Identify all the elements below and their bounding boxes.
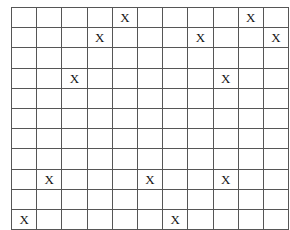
grid-cell-empty[interactable] <box>37 28 62 48</box>
grid-cell-empty[interactable] <box>213 209 238 225</box>
grid-cell-empty[interactable] <box>188 68 213 88</box>
grid-cell-empty[interactable] <box>62 108 87 128</box>
grid-cell-empty[interactable] <box>12 108 37 128</box>
grid-cell-empty[interactable] <box>112 28 137 48</box>
grid-cell-empty[interactable] <box>87 189 112 209</box>
grid-cell-empty[interactable] <box>87 209 112 225</box>
grid-cell-empty[interactable] <box>112 209 137 225</box>
grid-cell-empty[interactable] <box>263 169 288 189</box>
grid-cell-marked[interactable]: X <box>112 8 137 28</box>
grid-cell-empty[interactable] <box>238 48 263 68</box>
grid-cell-empty[interactable] <box>62 209 87 225</box>
grid-cell-empty[interactable] <box>112 189 137 209</box>
grid-cell-empty[interactable] <box>163 88 188 108</box>
grid-cell-empty[interactable] <box>62 129 87 149</box>
grid-cell-marked[interactable]: X <box>213 68 238 88</box>
grid-cell-empty[interactable] <box>37 209 62 225</box>
grid-cell-empty[interactable] <box>62 149 87 169</box>
grid-cell-empty[interactable] <box>263 8 288 28</box>
grid-cell-empty[interactable] <box>62 48 87 68</box>
grid-cell-empty[interactable] <box>213 8 238 28</box>
grid-cell-empty[interactable] <box>37 149 62 169</box>
grid-cell-empty[interactable] <box>163 108 188 128</box>
grid-cell-empty[interactable] <box>12 88 37 108</box>
grid-cell-empty[interactable] <box>87 169 112 189</box>
grid-cell-empty[interactable] <box>213 48 238 68</box>
grid-cell-empty[interactable] <box>137 149 162 169</box>
grid-cell-empty[interactable] <box>137 28 162 48</box>
grid-cell-empty[interactable] <box>62 88 87 108</box>
grid-cell-empty[interactable] <box>137 88 162 108</box>
grid-cell-empty[interactable] <box>213 189 238 209</box>
grid-cell-empty[interactable] <box>163 48 188 68</box>
grid-cell-empty[interactable] <box>188 108 213 128</box>
grid-cell-empty[interactable] <box>37 108 62 128</box>
grid-cell-empty[interactable] <box>188 88 213 108</box>
grid-cell-empty[interactable] <box>87 129 112 149</box>
grid-cell-empty[interactable] <box>213 88 238 108</box>
grid-cell-empty[interactable] <box>12 189 37 209</box>
grid-cell-empty[interactable] <box>163 28 188 48</box>
grid-cell-empty[interactable] <box>87 88 112 108</box>
grid-cell-empty[interactable] <box>62 189 87 209</box>
grid-cell-empty[interactable] <box>112 149 137 169</box>
grid-cell-empty[interactable] <box>238 209 263 225</box>
grid-cell-empty[interactable] <box>12 68 37 88</box>
grid-cell-empty[interactable] <box>188 8 213 28</box>
grid-cell-marked[interactable]: X <box>62 68 87 88</box>
grid-cell-empty[interactable] <box>188 129 213 149</box>
grid-cell-empty[interactable] <box>163 189 188 209</box>
grid-cell-empty[interactable] <box>163 8 188 28</box>
grid-cell-empty[interactable] <box>188 209 213 225</box>
grid-cell-empty[interactable] <box>87 48 112 68</box>
grid-cell-empty[interactable] <box>163 149 188 169</box>
grid-cell-empty[interactable] <box>188 149 213 169</box>
grid-cell-empty[interactable] <box>12 129 37 149</box>
grid-cell-empty[interactable] <box>12 8 37 28</box>
grid-cell-empty[interactable] <box>263 48 288 68</box>
grid-cell-empty[interactable] <box>87 8 112 28</box>
grid-cell-empty[interactable] <box>112 48 137 68</box>
grid-cell-empty[interactable] <box>137 48 162 68</box>
grid-cell-empty[interactable] <box>87 108 112 128</box>
grid-cell-empty[interactable] <box>112 68 137 88</box>
grid-cell-empty[interactable] <box>12 169 37 189</box>
grid-cell-marked[interactable]: X <box>37 169 62 189</box>
grid-cell-empty[interactable] <box>137 8 162 28</box>
grid-cell-empty[interactable] <box>163 169 188 189</box>
grid-cell-marked[interactable]: X <box>137 169 162 189</box>
grid-cell-empty[interactable] <box>37 8 62 28</box>
grid-cell-empty[interactable] <box>62 8 87 28</box>
grid-cell-empty[interactable] <box>137 189 162 209</box>
grid-cell-marked[interactable]: X <box>87 28 112 48</box>
grid-cell-empty[interactable] <box>188 48 213 68</box>
grid-cell-empty[interactable] <box>263 88 288 108</box>
grid-cell-empty[interactable] <box>238 129 263 149</box>
grid-cell-empty[interactable] <box>188 169 213 189</box>
grid-cell-marked[interactable]: X <box>263 28 288 48</box>
grid-cell-empty[interactable] <box>137 68 162 88</box>
grid-cell-empty[interactable] <box>62 169 87 189</box>
grid-cell-empty[interactable] <box>87 68 112 88</box>
grid-cell-empty[interactable] <box>238 169 263 189</box>
grid-cell-marked[interactable]: X <box>188 28 213 48</box>
grid-cell-empty[interactable] <box>37 48 62 68</box>
grid-cell-empty[interactable] <box>37 68 62 88</box>
grid-cell-empty[interactable] <box>213 129 238 149</box>
grid-cell-empty[interactable] <box>112 129 137 149</box>
grid-cell-empty[interactable] <box>12 28 37 48</box>
grid-cell-empty[interactable] <box>263 149 288 169</box>
grid-cell-empty[interactable] <box>263 209 288 225</box>
grid-cell-empty[interactable] <box>238 189 263 209</box>
grid-cell-empty[interactable] <box>263 189 288 209</box>
grid-cell-empty[interactable] <box>213 108 238 128</box>
grid-cell-empty[interactable] <box>87 149 112 169</box>
grid-cell-empty[interactable] <box>37 189 62 209</box>
grid-cell-empty[interactable] <box>137 209 162 225</box>
grid-cell-empty[interactable] <box>137 108 162 128</box>
grid-cell-empty[interactable] <box>263 108 288 128</box>
grid-cell-empty[interactable] <box>213 28 238 48</box>
grid-cell-marked[interactable]: X <box>12 209 37 225</box>
grid-cell-empty[interactable] <box>263 68 288 88</box>
grid-cell-empty[interactable] <box>112 88 137 108</box>
